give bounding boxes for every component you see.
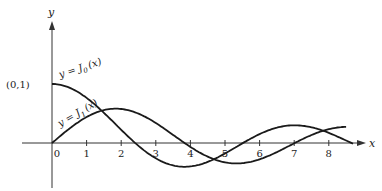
- series-j0-label: y = J0(x): [56, 56, 104, 83]
- x-tick-label: 7: [291, 148, 297, 159]
- series-j1-label: y = J1(x): [55, 97, 101, 132]
- y-axis-label: y: [47, 6, 55, 19]
- bessel-chart: x y (0,1) 012345678 y = J0(x) y = J1(x): [0, 0, 382, 191]
- x-tick-label: 0: [54, 148, 60, 159]
- x-tick-label: 6: [256, 148, 262, 159]
- x-tick-label: 1: [83, 148, 89, 159]
- series-j1-curve: [52, 109, 346, 164]
- x-tick-label: 8: [326, 148, 332, 159]
- x-tick-label: 2: [118, 148, 124, 159]
- y-axis-arrow-icon: [49, 21, 55, 30]
- x-axis-label: x: [369, 137, 376, 150]
- point-annotation: (0,1): [6, 79, 30, 90]
- x-axis-arrow-icon: [357, 140, 366, 146]
- x-tick-label: 4: [187, 148, 193, 159]
